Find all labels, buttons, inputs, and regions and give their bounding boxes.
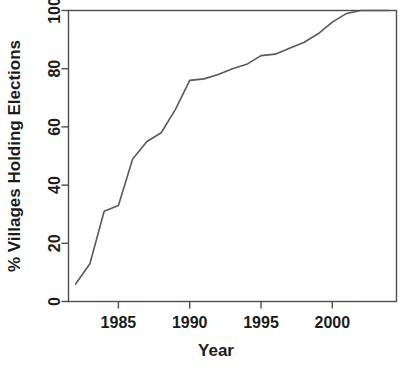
y-tick-label: 60 <box>46 118 63 136</box>
line-chart: 020406080100 1985199019952000 Year % Vil… <box>0 0 405 375</box>
y-tick-label: 80 <box>46 60 63 78</box>
chart-figure: 020406080100 1985199019952000 Year % Vil… <box>0 0 405 375</box>
y-tick-label: 40 <box>46 176 63 194</box>
y-tick-label: 20 <box>46 234 63 252</box>
data-series-group <box>76 11 390 285</box>
x-tick-label: 1985 <box>101 314 137 331</box>
x-tick-label: 1995 <box>243 314 279 331</box>
x-axis-tick-labels: 1985199019952000 <box>101 314 351 331</box>
y-tick-label: 0 <box>46 297 63 306</box>
y-axis-tick-labels: 020406080100 <box>46 0 63 306</box>
plot-frame-box <box>69 11 397 302</box>
data-series-line <box>76 11 390 285</box>
x-tick-label: 2000 <box>315 314 351 331</box>
y-axis-tick-marks <box>62 11 69 302</box>
y-axis-title: % Villages Holding Elections <box>5 40 24 272</box>
x-tick-label: 1990 <box>172 314 208 331</box>
x-axis-tick-marks <box>118 302 332 309</box>
y-tick-label: 100 <box>46 0 63 24</box>
x-axis-title: Year <box>198 341 234 360</box>
